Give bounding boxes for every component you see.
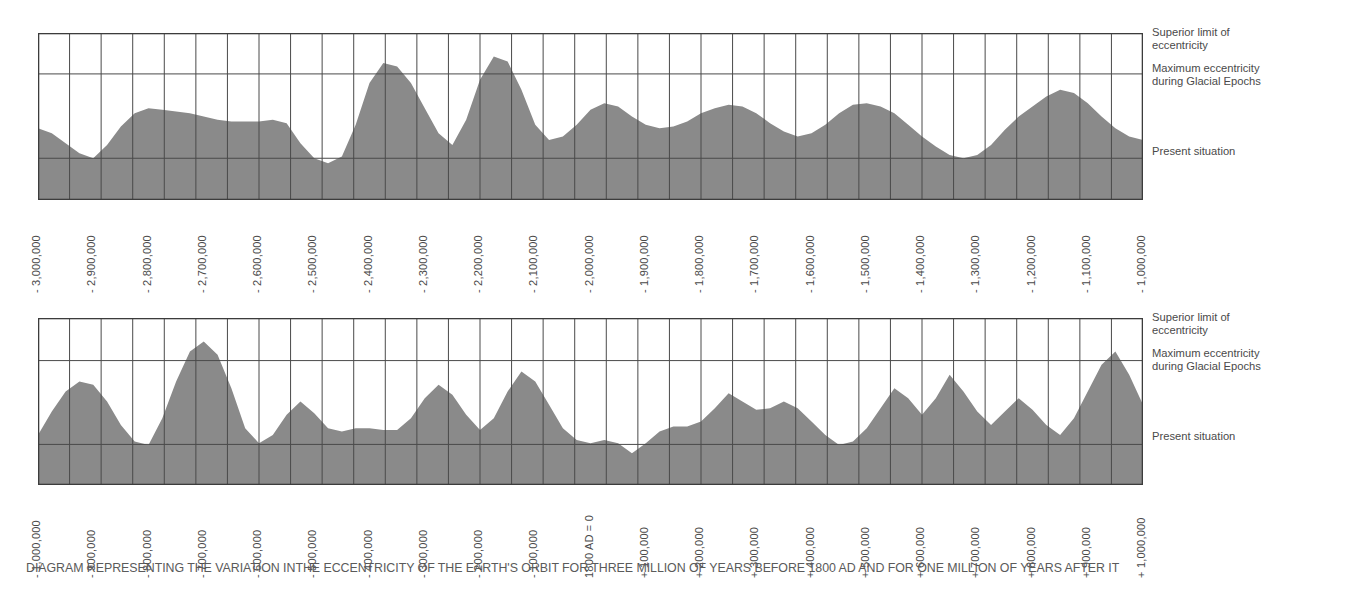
x-axis-labels-top: - 3,000,000- 2,900,000- 2,800,000- 2,700…	[38, 203, 1143, 293]
label-superior-limit: Superior limit of eccentricity	[1152, 311, 1352, 337]
diagram-caption: DIAGRAM REPRESENTING THE VARIATION INTHE…	[26, 561, 1356, 575]
label-maximum-glacial: Maximum eccentricity during Glacial Epoc…	[1152, 62, 1352, 88]
chart-panel-bottom: Superior limit of eccentricity Maximum e…	[0, 285, 1363, 565]
plot-area-top	[38, 33, 1143, 200]
label-present-situation: Present situation	[1152, 145, 1352, 158]
chart-panel-top: Superior limit of eccentricity Maximum e…	[0, 0, 1363, 300]
eccentricity-area-chart	[38, 318, 1143, 485]
eccentricity-area-chart	[38, 33, 1143, 200]
label-maximum-glacial: Maximum eccentricity during Glacial Epoc…	[1152, 347, 1352, 373]
plot-area-bottom	[38, 318, 1143, 485]
label-superior-limit: Superior limit of eccentricity	[1152, 26, 1352, 52]
label-present-situation: Present situation	[1152, 430, 1352, 443]
